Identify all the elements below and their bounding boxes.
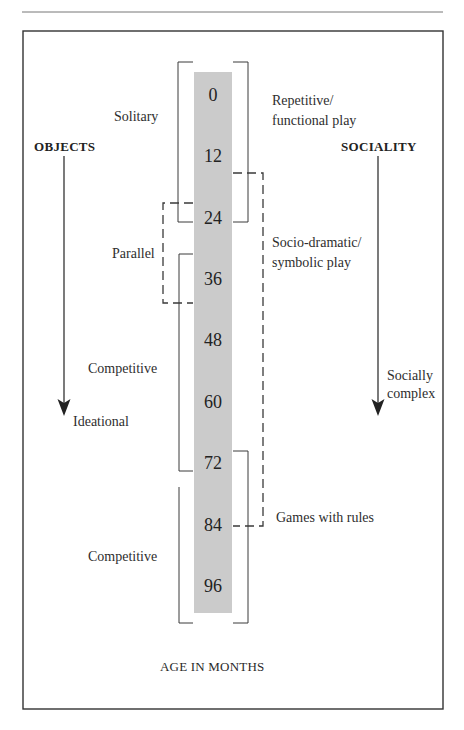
bracket-competitive-2: [179, 487, 193, 623]
sociality-end-label-line: complex: [387, 385, 435, 403]
stage-label-socio-dramatic-play: Socio-dramatic/ symbolic play: [272, 233, 361, 273]
diagram-canvas: [0, 0, 464, 730]
age-tick-12: 12: [194, 145, 232, 167]
objects-end-label: Ideational: [73, 413, 129, 431]
age-axis-label: AGE IN MONTHS: [160, 659, 264, 675]
bracket-games-with-rules: [233, 451, 248, 623]
bracket-repetitive-play: [233, 62, 248, 222]
age-tick-96: 96: [194, 575, 232, 597]
stage-label-line: Socio-dramatic/: [272, 233, 361, 253]
stage-label-solitary: Solitary: [114, 108, 158, 126]
sociality-end-label-line: Socially: [387, 367, 435, 385]
sociality-axis-title: SOCIALITY: [341, 139, 417, 155]
age-tick-72: 72: [194, 452, 232, 474]
age-tick-48: 48: [194, 329, 232, 351]
age-tick-84: 84: [194, 514, 232, 536]
sociality-end-label: Socially complex: [387, 367, 435, 403]
diagram-frame: [23, 31, 443, 709]
stage-label-line: symbolic play: [272, 253, 361, 273]
age-tick-24: 24: [194, 207, 232, 229]
bracket-competitive-1: [179, 254, 193, 471]
stage-label-games-with-rules: Games with rules: [276, 509, 374, 527]
stage-label-competitive-2: Competitive: [88, 548, 157, 566]
stage-label-line: Repetitive/: [272, 91, 356, 111]
age-tick-0: 0: [194, 84, 232, 106]
age-tick-60: 60: [194, 391, 232, 413]
stage-label-repetitive-play: Repetitive/ functional play: [272, 91, 356, 131]
stage-label-line: functional play: [272, 111, 356, 131]
age-tick-36: 36: [194, 268, 232, 290]
stage-label-competitive-1: Competitive: [88, 360, 157, 378]
stage-label-parallel: Parallel: [112, 245, 155, 263]
bracket-solitary: [178, 62, 193, 222]
objects-axis-title: OBJECTS: [34, 139, 95, 155]
